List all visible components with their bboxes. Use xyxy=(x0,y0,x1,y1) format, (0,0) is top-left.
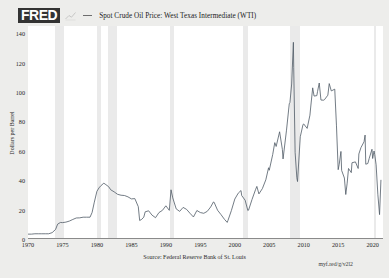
y-axis-tick-label: 140 xyxy=(1,30,25,37)
y-axis-tick-label: 40 xyxy=(1,177,25,184)
x-axis-tick-label: 1970 xyxy=(22,241,34,248)
x-axis-tick-label: 2005 xyxy=(263,241,275,248)
x-axis-tick-label: 2000 xyxy=(229,241,241,248)
fred-logo[interactable]: FRED xyxy=(18,8,60,23)
fred-swoosh-icon xyxy=(65,11,76,21)
source-note: Source: Federal Reserve Bank of St. Loui… xyxy=(0,254,389,260)
fred-chart-screenshot: FRED Spot Crude Oil Price: West Texas In… xyxy=(0,0,389,278)
x-axis-tick-label: 1975 xyxy=(56,241,68,248)
y-axis-ticks: 020406080100120140 xyxy=(0,26,28,239)
x-axis-tick-label: 2015 xyxy=(332,241,344,248)
legend-line-icon xyxy=(83,15,92,16)
x-axis-tick-label: 1995 xyxy=(194,241,206,248)
x-axis-tick-label: 1980 xyxy=(91,241,103,248)
oil-price-line-series xyxy=(28,26,383,239)
y-axis-tick-label: 20 xyxy=(1,206,25,213)
chart-series-title: Spot Crude Oil Price: West Texas Interme… xyxy=(99,12,256,20)
plot-area xyxy=(28,26,383,239)
x-axis-line xyxy=(28,238,383,239)
y-axis-tick-label: 120 xyxy=(1,59,25,66)
y-axis-tick-label: 100 xyxy=(1,89,25,96)
x-axis-tick-label: 2010 xyxy=(298,241,310,248)
x-axis-tick-label: 1985 xyxy=(125,241,137,248)
x-axis-tick-label: 2020 xyxy=(366,241,378,248)
y-axis-tick-label: 60 xyxy=(1,147,25,154)
oil-price-line xyxy=(28,42,381,234)
permalink-text[interactable]: myf.red/g/v2l2 xyxy=(318,261,353,267)
x-axis-ticks: 1970197519801985199019952000200520102015… xyxy=(28,241,383,253)
x-axis-tick-label: 1990 xyxy=(160,241,172,248)
chart-header: FRED Spot Crude Oil Price: West Texas In… xyxy=(18,8,256,23)
y-axis-tick-label: 80 xyxy=(1,118,25,125)
